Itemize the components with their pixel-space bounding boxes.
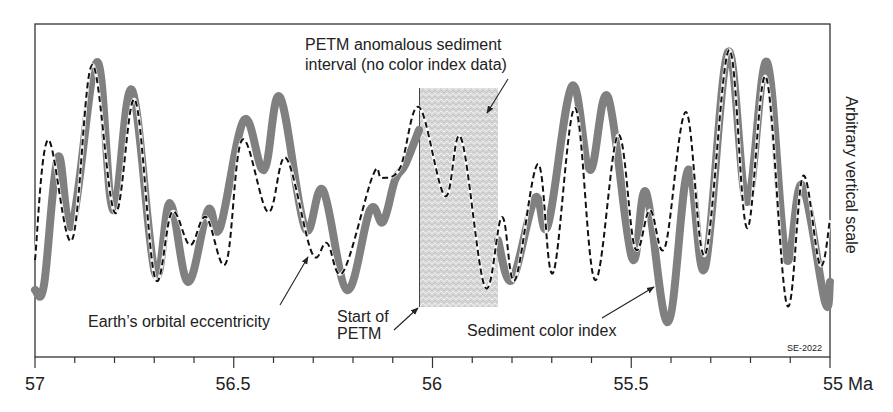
annotation-start-line1: Start of xyxy=(337,308,389,325)
tick-label-56: 56 xyxy=(422,374,442,394)
x-axis-ticks xyxy=(35,357,830,368)
petm-shaded-region xyxy=(419,88,498,307)
credit-label: SE-2022 xyxy=(787,343,822,353)
annotation-start-line2: PETM xyxy=(337,325,381,342)
annotation-eccentricity: Earth’s orbital eccentricity xyxy=(88,313,270,330)
tick-label-57: 57 xyxy=(25,374,45,394)
y-axis-label: Arbitrary vertical scale xyxy=(843,96,860,253)
tick-label-55.5: 55.5 xyxy=(613,374,648,394)
annotation-sediment: Sediment color index xyxy=(467,322,616,339)
annotation-petm-line2: interval (no color index data) xyxy=(305,56,507,73)
annotation-petm-line1: PETM anomalous sediment xyxy=(305,36,502,53)
chart: 57 56.5 56 55.5 55 Ma Arbitrary vertical… xyxy=(0,0,893,412)
tick-label-56.5: 56.5 xyxy=(215,374,250,394)
tick-label-55: 55 Ma xyxy=(823,374,874,394)
